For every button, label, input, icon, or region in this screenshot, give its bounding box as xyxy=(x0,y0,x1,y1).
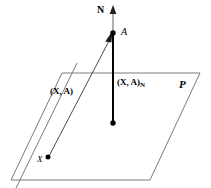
normal-axis-label: N xyxy=(97,5,104,15)
xa-segment-label: (X, A) xyxy=(50,87,73,96)
point-a-label: A xyxy=(121,27,127,37)
projection-foot-dot xyxy=(110,120,115,125)
xa-projection-label: (X, A)N xyxy=(117,78,145,89)
geometry-figure: N A (X, A) (X, A)N P X xyxy=(0,0,211,188)
xa-projection-label-base: (X, A) xyxy=(117,77,140,87)
normal-arrowhead-icon xyxy=(110,5,117,14)
plane-ruling-line xyxy=(16,63,77,188)
xa-segment-line xyxy=(48,39,110,158)
figure-canvas xyxy=(0,0,211,188)
xa-projection-label-subscript: N xyxy=(140,81,145,89)
point-a-dot xyxy=(110,30,115,35)
point-x-label: X xyxy=(37,155,43,164)
point-x-dot xyxy=(46,155,51,160)
plane-label: P xyxy=(179,79,186,90)
